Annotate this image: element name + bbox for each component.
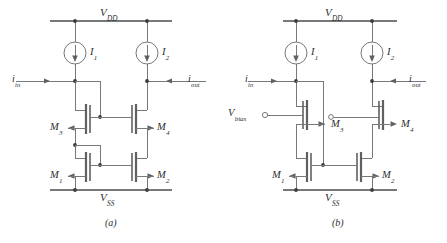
output-label-b: iout bbox=[409, 74, 420, 87]
m4-label-a: M4 bbox=[157, 122, 169, 135]
m1-label-a: M1 bbox=[50, 170, 62, 183]
node-output-b bbox=[370, 79, 374, 83]
subfigure-a-graphics bbox=[16, 19, 206, 192]
output-label-a: iout bbox=[188, 74, 199, 87]
m3-label-b: M3 bbox=[331, 119, 343, 132]
subfigure-b-graphics bbox=[248, 19, 426, 192]
current-source-2-label-a: I2 bbox=[162, 47, 169, 60]
node-m2-vss-b bbox=[370, 188, 374, 192]
node-vdd-right-a bbox=[145, 19, 149, 23]
m2-label-a: M2 bbox=[157, 170, 169, 183]
m3-label-a: M3 bbox=[50, 122, 62, 135]
node-output-a bbox=[145, 79, 149, 83]
input-arrow-head-a bbox=[44, 78, 50, 83]
m2-label-b: M2 bbox=[382, 170, 394, 183]
current-source-1-label-b: I1 bbox=[311, 47, 318, 60]
input-arrow-head-b bbox=[271, 78, 277, 83]
node-vdd-left-a bbox=[73, 19, 77, 23]
m4-label-b: M4 bbox=[401, 119, 413, 132]
vbias-terminal-b bbox=[262, 112, 267, 117]
vbias-label-b: Vbias bbox=[228, 108, 246, 121]
circuit-schematic-canvas bbox=[0, 0, 447, 243]
input-label-a: iin bbox=[12, 74, 20, 87]
vss-label-a: VSS bbox=[100, 192, 114, 206]
node-m1-vss-a bbox=[73, 188, 77, 192]
caption-b: (b) bbox=[332, 218, 344, 228]
figure-root: VDD VSS I1 I2 iin iout M3 M4 M1 M2 (a) V… bbox=[0, 0, 447, 243]
node-m2-vss-a bbox=[145, 188, 149, 192]
vss-label-b: VSS bbox=[325, 192, 339, 206]
output-arrow-head-a bbox=[166, 78, 172, 83]
current-source-2-label-b: I2 bbox=[387, 47, 394, 60]
input-label-b: iin bbox=[245, 74, 253, 87]
vdd-label-a: VDD bbox=[100, 7, 117, 21]
m4-arrow-b bbox=[391, 121, 398, 127]
output-arrow-head-b bbox=[390, 78, 396, 83]
node-vdd-right-b bbox=[370, 19, 374, 23]
vdd-label-b: VDD bbox=[325, 7, 342, 21]
m1-label-b: M1 bbox=[272, 170, 284, 183]
caption-a: (a) bbox=[105, 218, 117, 228]
node-m1-vss-b bbox=[294, 188, 298, 192]
node-vdd-left-b bbox=[294, 19, 298, 23]
current-source-1-label-a: I1 bbox=[90, 47, 97, 60]
